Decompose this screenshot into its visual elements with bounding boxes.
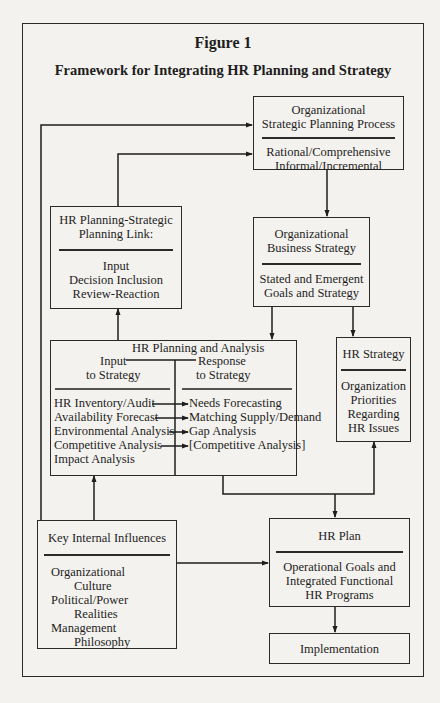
- heading-line: Strategic Planning Process: [254, 117, 403, 131]
- input-header-line1: Input: [100, 355, 126, 369]
- body-line: Integrated Functional: [270, 574, 409, 588]
- body-line: Goals and Strategy: [254, 286, 369, 300]
- hr-strategy-box: HR Strategy Organization Priorities Rega…: [336, 337, 411, 442]
- response-item: Matching Supply/Demand: [189, 411, 321, 425]
- input-item: Impact Analysis: [54, 453, 135, 467]
- heading-line: Implementation: [270, 642, 409, 656]
- input-item: Competitive Analysis: [54, 439, 162, 453]
- body-line: Organizational: [38, 565, 176, 579]
- divider: [44, 554, 170, 556]
- heading-line: Key Internal Influences: [38, 531, 176, 545]
- body-line: Input: [51, 259, 181, 273]
- divider: [276, 551, 403, 553]
- body-line: Philosophy: [38, 635, 176, 649]
- body-line: Rational/Comprehensive: [254, 145, 403, 159]
- body-line: Management: [38, 621, 176, 635]
- divider: [341, 369, 406, 371]
- body-line: Culture: [38, 579, 176, 593]
- body-line: Political/Power: [38, 593, 176, 607]
- body-line: Informal/Incremental: [254, 159, 403, 173]
- input-item: Environmental Analysis: [54, 425, 174, 439]
- input-header-line2: to Strategy: [86, 369, 141, 383]
- heading-line: HR Strategy: [337, 347, 410, 361]
- divider: [59, 249, 173, 251]
- body-line: Priorities: [337, 393, 410, 407]
- response-item: Needs Forecasting: [189, 397, 282, 411]
- heading-line: Organizational: [254, 227, 369, 241]
- hr-plan-box: HR Plan Operational Goals and Integrated…: [269, 518, 410, 607]
- divider: [262, 137, 395, 139]
- hr-planning-strategic-link-box: HR Planning-Strategic Planning Link: Inp…: [50, 206, 182, 309]
- body-line: HR Programs: [270, 588, 409, 602]
- body-line: Decision Inclusion: [51, 273, 181, 287]
- body-line: Regarding: [337, 407, 410, 421]
- heading-line: HR Planning-Strategic: [51, 213, 181, 227]
- key-internal-influences-box: Key Internal Influences Organizational C…: [37, 520, 177, 649]
- heading-line: Business Strategy: [254, 241, 369, 255]
- response-header-line2: to Strategy: [196, 369, 251, 383]
- body-line: Organization: [337, 379, 410, 393]
- body-line: Realities: [38, 607, 176, 621]
- heading-line: Planning Link:: [51, 227, 181, 241]
- heading-line: Organizational: [254, 103, 403, 117]
- response-header-line1: Response: [198, 355, 246, 369]
- divider: [262, 263, 361, 265]
- implementation-box: Implementation: [269, 633, 410, 664]
- body-line: Stated and Emergent: [254, 272, 369, 286]
- response-item: Gap Analysis: [189, 425, 256, 439]
- input-item: Availability Forecast: [54, 411, 158, 425]
- org-business-strategy-box: Organizational Business Strategy Stated …: [253, 217, 370, 307]
- body-line: Review-Reaction: [51, 287, 181, 301]
- body-line: HR Issues: [337, 421, 410, 435]
- input-item: HR Inventory/Audit: [54, 397, 155, 411]
- org-strategic-planning-box: Organizational Strategic Planning Proces…: [253, 96, 404, 170]
- response-item: [Competitive Analysis]: [189, 439, 305, 453]
- body-line: Operational Goals and: [270, 560, 409, 574]
- heading-line: HR Plan: [270, 529, 409, 543]
